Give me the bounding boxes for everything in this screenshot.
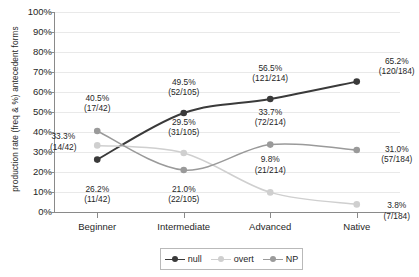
data-label-fraction: (14/42) <box>33 142 93 152</box>
x-tick-label: Intermediate <box>136 221 232 232</box>
gridline <box>54 12 400 13</box>
x-tick-label: Advanced <box>222 221 318 232</box>
y-tick-label: 60% <box>18 87 52 97</box>
y-tick-label: 50% <box>18 107 52 117</box>
data-label: 33.7%(72/214) <box>240 107 300 127</box>
y-tick <box>49 112 54 113</box>
y-tick-label: 90% <box>18 27 52 37</box>
y-axis-line <box>54 12 55 212</box>
data-label-percent: 65.2% <box>367 56 419 66</box>
data-label: 40.5%(17/42) <box>67 93 127 113</box>
y-tick-label: 0% <box>18 207 52 217</box>
data-label: 21.0%(22/105) <box>154 184 214 204</box>
gridline <box>54 152 400 153</box>
y-tick-label: 10% <box>18 187 52 197</box>
x-tick-label: Native <box>309 221 405 232</box>
data-label-percent: 29.5% <box>154 117 214 127</box>
gridline <box>54 52 400 53</box>
x-tick <box>270 213 271 218</box>
y-tick-label: 80% <box>18 47 52 57</box>
y-tick-label: 100% <box>18 7 52 17</box>
data-label: 9.8%(21/214) <box>240 154 300 174</box>
y-tick <box>49 152 54 153</box>
legend-marker-icon <box>263 255 283 264</box>
data-label-fraction: (121/214) <box>240 73 300 83</box>
data-label-percent: 21.0% <box>154 184 214 194</box>
data-label-fraction: (57/184) <box>367 154 419 164</box>
data-label-fraction: (7/184) <box>367 211 419 221</box>
legend-label: overt <box>234 254 254 264</box>
y-tick <box>49 92 54 93</box>
data-label: 65.2%(120/184) <box>367 56 419 76</box>
data-label-fraction: (21/214) <box>240 165 300 175</box>
data-label-percent: 31.0% <box>367 144 419 154</box>
data-label-fraction: (17/42) <box>67 103 127 113</box>
legend-item-overt[interactable]: overt <box>211 254 254 264</box>
data-label-fraction: (22/105) <box>154 194 214 204</box>
y-tick <box>49 212 54 213</box>
y-tick-label: 20% <box>18 167 52 177</box>
data-label: 49.5%(52/105) <box>154 77 214 97</box>
x-tick-label: Beginner <box>49 221 145 232</box>
chart-legend[interactable]: nullovertNP <box>160 248 303 270</box>
y-tick-label: 70% <box>18 67 52 77</box>
data-label-percent: 9.8% <box>240 154 300 164</box>
gridline <box>54 172 400 173</box>
y-tick <box>49 172 54 173</box>
data-label-percent: 33.7% <box>240 107 300 117</box>
y-tick <box>49 52 54 53</box>
y-tick <box>49 32 54 33</box>
data-label: 3.8%(7/184) <box>367 200 419 220</box>
x-tick <box>357 213 358 218</box>
y-tick <box>49 12 54 13</box>
data-label-fraction: (52/105) <box>154 87 214 97</box>
legend-label: null <box>188 254 202 264</box>
data-label-fraction: (72/214) <box>240 117 300 127</box>
data-label-percent: 33.3% <box>33 131 93 141</box>
data-label-percent: 26.2% <box>67 184 127 194</box>
data-label-fraction: (120/184) <box>367 66 419 76</box>
data-label-fraction: (11/42) <box>67 194 127 204</box>
data-label-fraction: (31/105) <box>154 127 214 137</box>
y-tick <box>49 192 54 193</box>
legend-marker-icon <box>165 255 185 264</box>
data-label-percent: 56.5% <box>240 63 300 73</box>
x-axis-line <box>54 212 400 213</box>
legend-item-NP[interactable]: NP <box>263 254 299 264</box>
gridline <box>54 32 400 33</box>
gridline <box>54 72 400 73</box>
data-label: 29.5%(31/105) <box>154 117 214 137</box>
data-label: 56.5%(121/214) <box>240 63 300 83</box>
data-label: 33.3%(14/42) <box>33 131 93 151</box>
legend-marker-icon <box>211 255 231 264</box>
data-label-percent: 49.5% <box>154 77 214 87</box>
legend-label: NP <box>286 254 299 264</box>
data-label: 31.0%(57/184) <box>367 144 419 164</box>
data-label-percent: 40.5% <box>67 93 127 103</box>
x-tick <box>184 213 185 218</box>
gridline <box>54 132 400 133</box>
data-label-percent: 3.8% <box>367 200 419 210</box>
data-label: 26.2%(11/42) <box>67 184 127 204</box>
x-tick <box>97 213 98 218</box>
legend-item-null[interactable]: null <box>165 254 202 264</box>
y-tick <box>49 72 54 73</box>
